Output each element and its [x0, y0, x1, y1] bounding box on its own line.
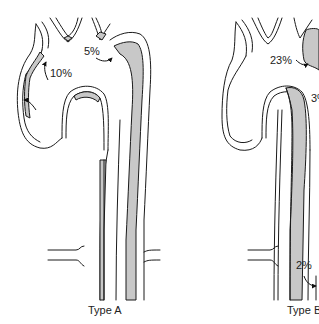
b-ascending-outer-wall: [222, 22, 262, 150]
b-renal-left-upper: [248, 246, 278, 250]
b-descending-left-wall: [274, 110, 278, 300]
b-ascending-inner-wall: [227, 56, 252, 143]
label-2pct: 2%: [296, 259, 312, 271]
false-lumen-descending-left: [100, 160, 106, 300]
b-renal-left-lower: [248, 260, 278, 266]
arrow-icon-2pct: [304, 276, 316, 286]
descending-right-inner: [116, 120, 120, 300]
caption-type-b: Type B: [287, 304, 319, 316]
label-5pct: 5%: [84, 45, 100, 57]
renal-right-upper: [144, 250, 160, 252]
arrow-icon-5pct: [96, 58, 112, 61]
b-descending-right-wall: [308, 150, 310, 300]
label-3pct: 3%: [311, 92, 319, 104]
brachiocephalic-outer: [36, 24, 43, 50]
label-23pct: 23%: [270, 54, 292, 66]
false-lumen-inner-arch: [74, 92, 100, 102]
renal-right-lower: [144, 260, 160, 262]
label-10pct: 10%: [50, 67, 72, 79]
left-carotid-v-inner: [56, 18, 78, 36]
caption-type-a: Type A: [88, 304, 122, 316]
b-descending-left-inner: [278, 110, 282, 300]
renal-left-upper: [48, 246, 84, 250]
b-brachiocephalic-outer: [236, 22, 247, 56]
arrow-icon-10pct: [45, 62, 48, 80]
panel-type-b: 23% 3% 2% Type B: [222, 18, 319, 316]
ascending-outer-wall: [17, 24, 62, 148]
b-left-carotid-v: [252, 18, 282, 44]
aortic-dissection-diagram: 10% 5% Type A 23% 3% 2% Type B: [0, 0, 319, 324]
panel-type-a: 10% 5% Type A: [17, 18, 160, 316]
renal-left-lower: [48, 260, 84, 266]
b-false-lumen-subclavian: [303, 29, 319, 71]
